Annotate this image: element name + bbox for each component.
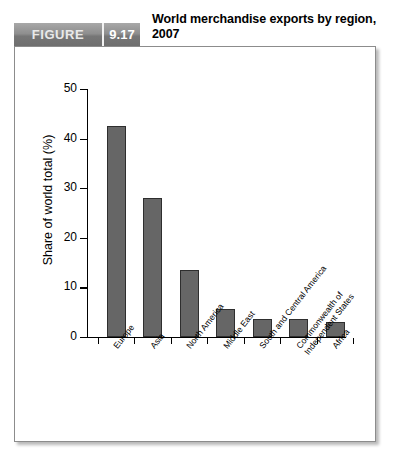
y-axis-tick: 20 <box>80 238 88 239</box>
figure-badge-number: 9.17 <box>104 23 140 47</box>
figure-header: FIGURE 9.17 World merchandise exports by… <box>0 0 393 52</box>
x-axis-tick <box>98 338 99 344</box>
chart-frame: Share of world total (%) 01020304050 Eur… <box>14 46 376 442</box>
bar <box>107 126 126 337</box>
y-axis-title: Share of world total (%) <box>41 85 55 315</box>
figure-badge: FIGURE 9.17 <box>14 23 140 47</box>
y-axis-tick: 50 <box>80 89 88 90</box>
y-axis-tick-label: 30 <box>64 180 77 194</box>
x-axis-tick <box>280 338 281 344</box>
y-axis-tick: 10 <box>80 287 88 288</box>
figure-title: World merchandise exports by region, 200… <box>152 12 384 41</box>
y-axis-tick: 40 <box>80 139 88 140</box>
x-axis-tick <box>134 338 135 344</box>
x-axis-tick <box>207 338 208 344</box>
x-axis-tick <box>353 338 354 344</box>
y-axis-tick-label: 40 <box>64 131 77 145</box>
bar <box>180 270 199 337</box>
x-axis-tick <box>171 338 172 344</box>
figure-badge-word: FIGURE <box>14 23 102 47</box>
y-axis-tick-label: 20 <box>64 230 77 244</box>
y-axis-tick: 30 <box>80 188 88 189</box>
y-axis-line <box>87 89 88 338</box>
y-axis-tick-label: 10 <box>64 279 77 293</box>
x-axis-tick <box>244 338 245 344</box>
y-axis-tick-label: 50 <box>64 81 77 95</box>
y-axis-tick-label: 0 <box>70 329 77 343</box>
plot-area: Share of world total (%) 01020304050 Eur… <box>15 47 377 443</box>
bar <box>143 198 162 337</box>
y-axis-tick: 0 <box>80 337 88 338</box>
